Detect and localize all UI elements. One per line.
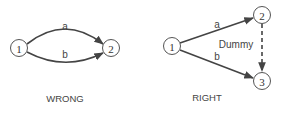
wrong-node-2: 2 bbox=[103, 40, 120, 57]
network-diagram: a b 1 2 WRONG a b Dummy 1 2 3 R bbox=[0, 0, 284, 117]
right-node-1: 1 bbox=[164, 38, 181, 55]
wrong-diagram: a b 1 2 WRONG bbox=[11, 21, 120, 104]
right-node-2-label: 2 bbox=[259, 10, 265, 22]
right-node-3: 3 bbox=[254, 73, 271, 90]
right-node-3-label: 3 bbox=[259, 76, 265, 88]
right-node-2: 2 bbox=[254, 7, 271, 24]
wrong-node-2-label: 2 bbox=[108, 43, 114, 55]
right-edge-a-label: a bbox=[214, 19, 220, 30]
wrong-edge-a-label: a bbox=[62, 21, 68, 32]
right-caption: RIGHT bbox=[192, 92, 222, 103]
wrong-node-1: 1 bbox=[11, 40, 28, 57]
wrong-node-1-label: 1 bbox=[16, 43, 22, 55]
right-edge-b-label: b bbox=[214, 51, 220, 62]
right-diagram: a b Dummy 1 2 3 RIGHT bbox=[164, 7, 271, 103]
right-node-1-label: 1 bbox=[169, 41, 175, 53]
wrong-edge-b-label: b bbox=[62, 49, 68, 60]
right-edge-dummy-label: Dummy bbox=[219, 39, 253, 50]
wrong-caption: WRONG bbox=[46, 93, 83, 104]
